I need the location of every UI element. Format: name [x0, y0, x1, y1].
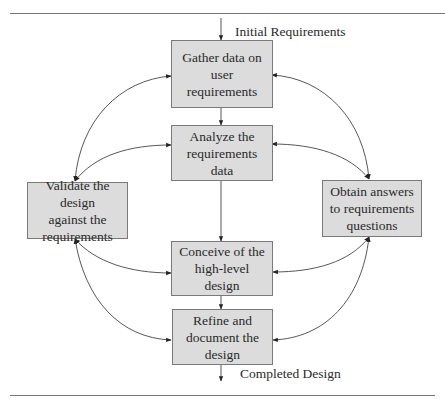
- node-gather-line-1: Gather data on: [176, 49, 268, 66]
- node-refine-line-3: design: [186, 346, 259, 363]
- node-validate-line-1: Validate the design: [32, 177, 123, 211]
- node-validate: Validate the design against the requirem…: [27, 182, 128, 239]
- node-conceive: Conceive of the high-level design: [171, 241, 273, 296]
- node-gather: Gather data on user requirements: [171, 40, 273, 108]
- node-validate-line-3: requirements: [32, 228, 123, 245]
- input-label: Initial Requirements: [235, 24, 346, 40]
- link-obtain-refine: [273, 237, 369, 340]
- node-refine: Refine and document the design: [172, 309, 273, 365]
- node-conceive-line-2: high-level design: [176, 260, 268, 294]
- link-validate-gather: [75, 76, 171, 181]
- link-obtain-conceive: [273, 237, 369, 272]
- link-obtain-gather: [272, 75, 369, 179]
- node-obtain-line-2: to requirements: [330, 200, 414, 217]
- node-conceive-line-1: Conceive of the: [176, 243, 268, 260]
- node-refine-line-2: document the: [186, 329, 259, 346]
- node-obtain-line-3: questions: [330, 217, 414, 234]
- node-refine-line-1: Refine and: [186, 312, 259, 329]
- node-analyze-line-2: requirements data: [176, 145, 268, 179]
- node-analyze-line-1: Analyze the: [176, 128, 268, 145]
- node-gather-line-2: user requirements: [176, 66, 268, 100]
- output-label: Completed Design: [240, 366, 341, 382]
- link-validate-refine: [75, 239, 171, 340]
- node-obtain-line-1: Obtain answers: [330, 183, 414, 200]
- link-obtain-analyze: [272, 144, 369, 179]
- node-analyze: Analyze the requirements data: [171, 125, 273, 181]
- node-obtain: Obtain answers to requirements questions: [322, 180, 422, 237]
- node-validate-line-2: against the: [32, 211, 123, 228]
